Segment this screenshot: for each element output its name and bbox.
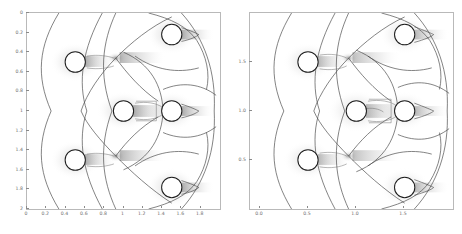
tick-y xyxy=(26,110,29,111)
tick-y xyxy=(249,61,252,62)
tick-y xyxy=(26,169,29,170)
tick-y xyxy=(26,149,29,150)
x-tick-label: 0.4 xyxy=(61,211,69,216)
tick-y xyxy=(26,71,29,72)
tick-y xyxy=(26,32,29,33)
x-tick-label: 1.0 xyxy=(351,211,359,216)
x-tick-label: 1.8 xyxy=(196,211,204,216)
tick-x xyxy=(103,206,104,209)
tick-x xyxy=(26,206,27,209)
x-tick-label: 0.2 xyxy=(41,211,49,216)
x-tick-label: 1.4 xyxy=(157,211,165,216)
tick-x xyxy=(65,206,66,209)
y-tick-label: 1.0 xyxy=(231,108,246,113)
tick-x xyxy=(259,206,260,209)
right-plot-area xyxy=(249,12,454,210)
tick-x xyxy=(45,206,46,209)
right-plot-canvas xyxy=(250,13,453,209)
x-tick-label: 0.6 xyxy=(80,211,88,216)
left-plot-canvas xyxy=(27,13,220,209)
y-tick-label: 1.2 xyxy=(8,127,23,132)
y-tick-label: 1.6 xyxy=(8,166,23,171)
y-tick-label: 1 xyxy=(8,108,23,113)
tick-x xyxy=(403,206,404,209)
tick-x xyxy=(123,206,124,209)
right-panel: 1.5 1.0 0.5 0.0 0.5 1.0 1.5 xyxy=(231,0,462,234)
x-tick-label: 1.6 xyxy=(177,211,185,216)
tick-y xyxy=(26,188,29,189)
x-tick-label: 1.5 xyxy=(399,211,407,216)
y-tick-label: 0.8 xyxy=(8,88,23,93)
x-tick-label: 0.8 xyxy=(99,211,107,216)
y-tick-label: 1.8 xyxy=(8,186,23,191)
tick-y xyxy=(249,159,252,160)
y-tick-label: 0.6 xyxy=(8,68,23,73)
tick-x xyxy=(180,206,181,209)
y-tick-label: 1.4 xyxy=(8,147,23,152)
x-tick-label: 0 xyxy=(24,211,27,216)
y-tick-label: 0.4 xyxy=(8,49,23,54)
x-tick-label: 0.0 xyxy=(255,211,263,216)
tick-y xyxy=(26,12,29,13)
y-tick-label: 0.2 xyxy=(8,29,23,34)
tick-x xyxy=(161,206,162,209)
tick-y xyxy=(26,51,29,52)
tick-x xyxy=(200,206,201,209)
y-tick-label: 1.5 xyxy=(231,59,246,64)
tick-x xyxy=(307,206,308,209)
x-tick-label: 0.5 xyxy=(303,211,311,216)
tick-y xyxy=(249,110,252,111)
figure-root: 0 0.2 0.4 0.6 0.8 1 1.2 1.4 1.6 1.8 2 0 … xyxy=(0,0,462,234)
x-tick-label: 1 xyxy=(121,211,124,216)
x-tick-label: 1.2 xyxy=(138,211,146,216)
tick-x xyxy=(142,206,143,209)
y-tick-label: 0.5 xyxy=(231,157,246,162)
y-tick-label: 0 xyxy=(8,10,23,15)
y-tick-label: 2 xyxy=(8,206,23,211)
tick-x xyxy=(355,206,356,209)
left-panel: 0 0.2 0.4 0.6 0.8 1 1.2 1.4 1.6 1.8 2 0 … xyxy=(0,0,231,234)
tick-y xyxy=(26,130,29,131)
left-plot-area xyxy=(26,12,221,210)
tick-y xyxy=(26,90,29,91)
tick-y xyxy=(26,208,29,209)
tick-x xyxy=(84,206,85,209)
